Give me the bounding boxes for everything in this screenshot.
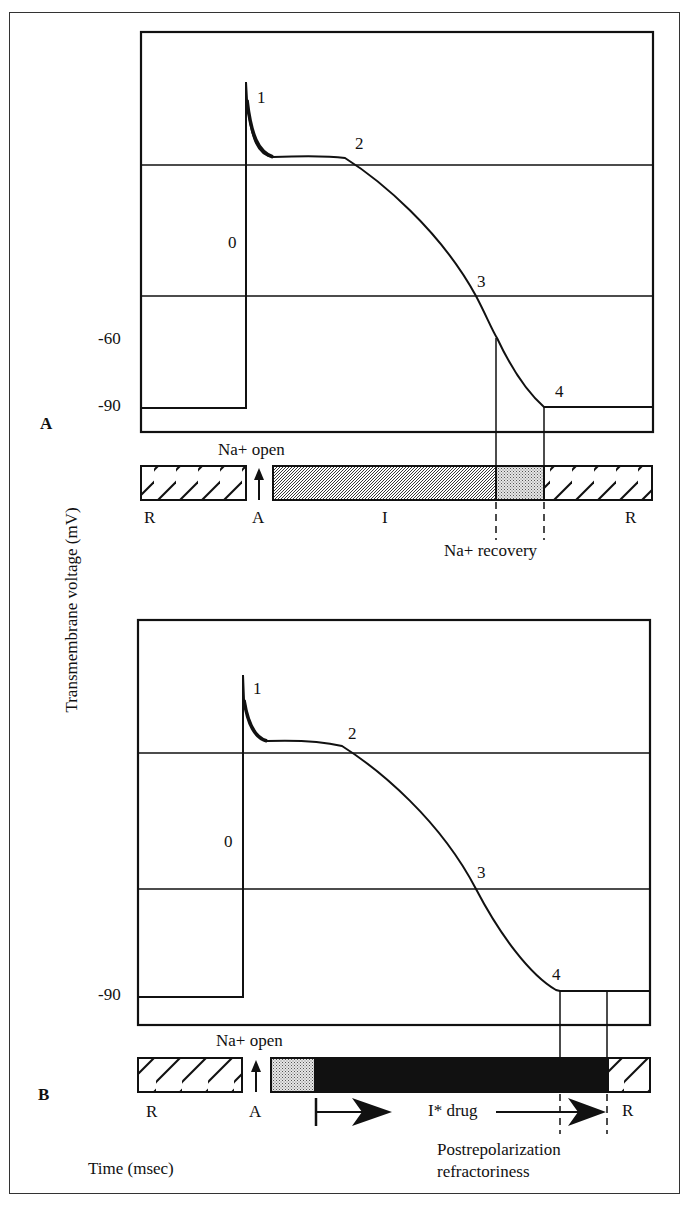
activated-label: A	[249, 1103, 261, 1120]
phase-0-label: 0	[224, 833, 233, 850]
phase-4-label: 4	[552, 966, 561, 983]
phase-4-label: 4	[555, 383, 564, 400]
resting-segment-left	[138, 1058, 242, 1092]
x-axis-label: Time (msec)	[88, 1160, 174, 1177]
y-axis-label: Transmembrane voltage (mV)	[62, 507, 82, 712]
na-recovery-label: Na+ recovery	[444, 542, 537, 559]
resting-label-left: R	[144, 509, 155, 526]
phase-0-label: 0	[228, 234, 237, 251]
action-potential-diagram	[0, 0, 684, 1207]
panel-a-plot	[141, 32, 653, 500]
na-open-label: Na+ open	[218, 441, 285, 458]
refractoriness-label-line2: refractoriness	[437, 1163, 530, 1180]
action-potential-trace	[138, 675, 650, 997]
na-open-label: Na+ open	[216, 1032, 283, 1049]
recovery-segment	[271, 1058, 315, 1092]
resting-segment-right	[544, 466, 652, 500]
tick-minus-90: -90	[98, 986, 121, 1003]
resting-label-left: R	[146, 1103, 157, 1120]
phase-3-label: 3	[477, 273, 486, 290]
recovery-segment	[496, 466, 544, 500]
phase-2-label: 2	[355, 135, 364, 152]
action-potential-trace	[141, 82, 653, 408]
tick-minus-60: -60	[98, 330, 121, 347]
tick-minus-90: -90	[98, 397, 121, 414]
panel-a-label: A	[40, 414, 52, 434]
panel-b-channel-bar	[138, 1058, 650, 1134]
phase-3-label: 3	[477, 864, 486, 881]
refractoriness-label-line1: Postrepolarization	[437, 1141, 561, 1158]
resting-label-right: R	[625, 509, 636, 526]
resting-segment-right	[608, 1058, 650, 1092]
inactivated-segment	[273, 466, 496, 500]
phase-1-label: 1	[257, 89, 266, 106]
resting-label-right: R	[622, 1102, 633, 1119]
drug-inactivated-label: I* drug	[428, 1102, 478, 1119]
resting-segment-left	[141, 466, 246, 500]
panel-b-label: B	[38, 1085, 49, 1105]
drug-inactivated-segment	[315, 1058, 608, 1092]
activated-label: A	[252, 509, 264, 526]
inactivated-label: I	[382, 509, 388, 526]
phase-2-label: 2	[348, 725, 357, 742]
phase-1-label: 1	[253, 680, 262, 697]
panel-a-channel-bar	[141, 466, 652, 540]
panel-b-plot	[138, 620, 650, 1060]
